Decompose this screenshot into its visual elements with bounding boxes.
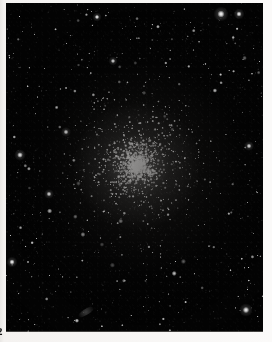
folio-page-number-text: 2 bbox=[0, 325, 8, 337]
scanned-page: 2 bbox=[0, 0, 272, 342]
plate-bottom-edge-line bbox=[6, 331, 263, 332]
astronomical-photographic-plate bbox=[6, 3, 263, 332]
folio-page-number: 2 bbox=[0, 325, 8, 337]
star-field-canvas bbox=[6, 3, 263, 332]
